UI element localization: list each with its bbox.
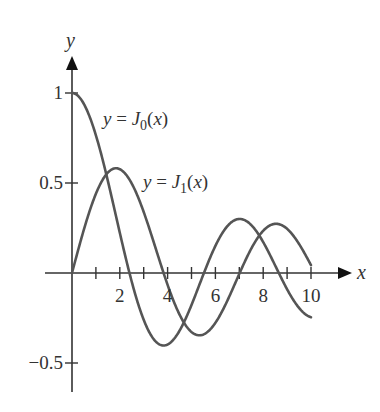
x-tick-label: 4 xyxy=(163,285,173,306)
x-tick-label: 8 xyxy=(258,285,268,306)
y-tick-label: 0.5 xyxy=(39,172,63,193)
axes xyxy=(45,56,352,392)
series-label-j1: y = J1(x) xyxy=(141,171,208,196)
y-tick-label: 1 xyxy=(54,82,64,103)
x-tick-label: 6 xyxy=(211,285,221,306)
x-tick-label: 2 xyxy=(115,285,125,306)
curve-j1 xyxy=(72,168,311,335)
y-tick-label: −0.5 xyxy=(29,352,63,373)
y-axis-arrow-icon xyxy=(66,56,78,70)
series-label-j0: y = J0(x) xyxy=(101,108,168,133)
curve-j0 xyxy=(72,93,311,346)
x-axis-arrow-icon xyxy=(338,267,352,279)
x-axis-label: x xyxy=(356,261,366,283)
x-tick-label: 10 xyxy=(302,285,321,306)
bessel-chart: 24681010.5−0.5xyy = J0(x)y = J1(x) xyxy=(0,0,380,412)
y-axis-label: y xyxy=(64,29,75,52)
labels: 24681010.5−0.5xyy = J0(x)y = J1(x) xyxy=(29,29,366,373)
curves xyxy=(72,93,311,346)
